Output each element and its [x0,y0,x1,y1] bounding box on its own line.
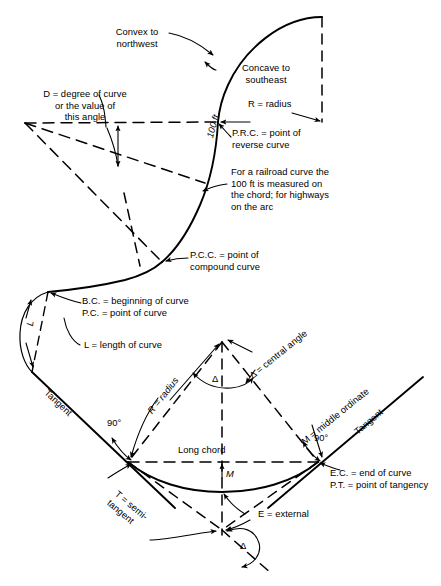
compound-curve-arc [48,262,162,292]
label-radius-top: R = radius [248,98,292,110]
dashed-bc-to-tangentpoint [32,292,48,372]
tangent-extension-lower [222,530,272,574]
delta-arc-center [193,373,253,388]
semi-tangent-leader-bottom [150,531,216,540]
leader-prc [219,124,231,137]
label-concave-to-southeast: Concave to southeast [222,62,310,85]
semi-tangent-right [222,462,318,530]
arc-arrow-bottom [26,343,33,367]
leader-convex [169,33,213,55]
label-pcc: P.C.C. = point of compound curve [190,249,260,272]
label-delta-center: Δ [212,373,218,385]
label-degree-of-curve: D = degree of curve or the value of this… [24,88,146,123]
middle-curve-arc [162,122,218,262]
leader-pcc [166,258,188,261]
radius-arrow-right [292,113,320,121]
leader-bc-pc [51,293,81,303]
leader-concave [205,62,216,70]
angle-d-arc [107,128,118,166]
label-bc-pc: B.C. = beginning of curve P.C. = point o… [82,295,189,318]
semi-tangent-leader-top [108,464,131,478]
label-prc: P.R.C. = point of reverse curve [232,127,301,150]
label-length-of-curve: L = length of curve [84,339,162,351]
main-curve-arc [128,462,318,492]
label-external: E = external [258,508,309,520]
label-long-chord: Long chord [178,444,225,456]
central-angle-arrow-up [228,340,252,352]
curve-nomenclature-diagram: Convex to northwest Concave to southeast… [0,0,441,586]
label-ec-pt: E.C. = end of curve P.T. = point of tang… [330,467,428,490]
label-m-short: M [226,468,234,480]
external-arrow-up [224,494,245,514]
dashed-radius-pcc [124,193,140,266]
label-angle-90-right: 90° [314,432,328,444]
leader-length-of-curve [64,318,80,345]
label-delta-bottom: Δ [240,540,246,552]
dashed-ray-steep [25,123,162,262]
label-angle-90-left: 90° [107,417,121,429]
radius-main-arrow-up [170,344,219,400]
label-convex-to-northwest: Convex to northwest [102,26,172,49]
label-railroad-note: For a railroad curve the 100 ft is measu… [231,166,329,212]
